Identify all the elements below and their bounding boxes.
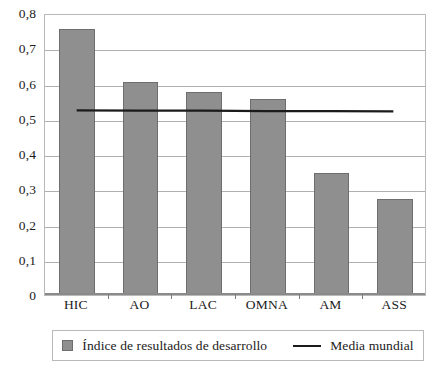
bar-hic [59, 29, 95, 295]
x-axis-label-ass: ASS [381, 298, 406, 313]
y-axis-tick-label: 0,5 [19, 113, 36, 127]
bar-group [172, 15, 236, 295]
y-axis-tick-label: 0,6 [19, 78, 36, 92]
plot-area [44, 14, 426, 296]
bar-omna [250, 99, 286, 295]
legend-line-swatch-icon [293, 345, 321, 347]
bar-group [363, 15, 427, 295]
bars-layer [45, 15, 425, 295]
bar-group [45, 15, 109, 295]
bar-am [314, 173, 350, 295]
legend-square-swatch-icon [62, 340, 73, 351]
y-axis-tick-label: 0 [29, 289, 36, 303]
y-axis: 0,80,70,60,50,40,30,20,10 [0, 14, 40, 296]
y-axis-tick-label: 0,3 [19, 184, 36, 198]
y-axis-tick-label: 0,4 [19, 148, 36, 162]
y-axis-tick-label: 0,1 [19, 254, 36, 268]
x-axis-label-lac: LAC [189, 298, 217, 313]
chart-legend: Índice de resultados de desarrolloMedia … [52, 330, 424, 361]
x-axis-label-ao: AO [130, 298, 150, 313]
y-axis-tick-label: 0,8 [19, 7, 36, 21]
x-axis-label-hic: HIC [64, 298, 88, 313]
legend-entry: Índice de resultados de desarrollo [62, 339, 267, 353]
bar-group [236, 15, 300, 295]
bar-group [300, 15, 364, 295]
legend-label: Índice de resultados de desarrollo [82, 339, 267, 353]
x-axis-label-am: AM [319, 298, 341, 313]
bar-ao [123, 82, 159, 295]
y-axis-tick-label: 0,7 [19, 43, 36, 57]
x-axis-label-omna: OMNA [246, 298, 288, 313]
legend-label: Media mundial [330, 339, 413, 353]
x-axis-categories: HICAOLACOMNAAMASS [44, 298, 426, 320]
bar-chart-figure: 0,80,70,60,50,40,30,20,10 HICAOLACOMNAAM… [0, 0, 438, 380]
bar-ass [377, 199, 413, 295]
bar-lac [186, 92, 222, 295]
legend-entry: Media mundial [293, 339, 413, 353]
bar-group [109, 15, 173, 295]
y-axis-tick-label: 0,2 [19, 219, 36, 233]
